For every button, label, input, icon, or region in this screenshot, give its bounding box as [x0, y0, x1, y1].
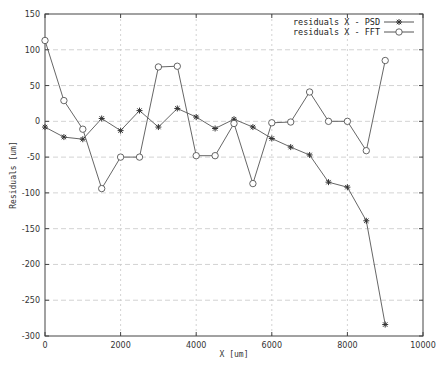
asterisk-marker-icon — [42, 124, 48, 130]
y-tick-label: 0 — [35, 117, 40, 126]
axis-ticks: 150100500-50-100-150-200-250-30002000400… — [22, 10, 436, 350]
asterisk-marker-icon — [137, 108, 143, 114]
circle-marker-icon — [344, 118, 350, 124]
asterisk-marker-icon — [174, 105, 180, 111]
circle-marker-icon — [117, 154, 123, 160]
y-tick-label: 50 — [30, 82, 40, 91]
x-tick-label: 0 — [42, 341, 47, 350]
circle-marker-icon — [61, 97, 67, 103]
circle-marker-icon — [396, 29, 402, 35]
plot-frame — [45, 14, 423, 336]
asterisk-marker-icon — [193, 114, 199, 120]
asterisk-marker-icon — [326, 179, 332, 185]
y-tick-label: 100 — [25, 46, 40, 55]
circle-marker-icon — [231, 120, 237, 126]
asterisk-marker-icon — [155, 124, 161, 130]
x-tick-label: 4000 — [186, 341, 206, 350]
x-tick-label: 2000 — [110, 341, 130, 350]
circle-marker-icon — [80, 126, 86, 132]
y-tick-label: -300 — [22, 332, 40, 341]
circle-marker-icon — [306, 89, 312, 95]
y-tick-label: -200 — [22, 260, 40, 269]
asterisk-marker-icon — [118, 128, 124, 134]
legend: residuals X - PSD residuals X - FFT — [293, 17, 414, 37]
asterisk-marker-icon — [250, 124, 256, 130]
legend-psd-label: residuals X - PSD — [293, 17, 380, 27]
circle-marker-icon — [382, 57, 388, 63]
circle-marker-icon — [269, 120, 275, 126]
x-tick-label: 6000 — [262, 341, 282, 350]
asterisk-marker-icon — [61, 134, 67, 140]
asterisk-marker-icon — [363, 218, 369, 224]
y-axis-label: Residuals [um] — [9, 141, 18, 208]
residuals-chart: 150100500-50-100-150-200-250-30002000400… — [0, 0, 441, 371]
circle-marker-icon — [363, 147, 369, 153]
circle-marker-icon — [136, 154, 142, 160]
asterisk-marker-icon — [99, 115, 105, 121]
asterisk-marker-icon — [212, 125, 218, 131]
asterisk-marker-icon — [288, 144, 294, 150]
x-tick-label: 8000 — [337, 341, 357, 350]
grid-lines — [45, 14, 423, 336]
data-series — [42, 37, 389, 327]
circle-marker-icon — [212, 152, 218, 158]
asterisk-marker-icon — [382, 322, 388, 328]
y-tick-label: -250 — [22, 296, 40, 305]
y-tick-label: 150 — [25, 10, 40, 19]
circle-marker-icon — [288, 119, 294, 125]
circle-marker-icon — [174, 63, 180, 69]
asterisk-marker-icon — [396, 19, 402, 25]
circle-marker-icon — [99, 185, 105, 191]
circle-marker-icon — [250, 180, 256, 186]
legend-fft-label: residuals X - FFT — [293, 27, 380, 37]
x-axis-label: X [um] — [220, 350, 249, 359]
asterisk-marker-icon — [307, 152, 313, 158]
series-line — [45, 109, 385, 325]
x-tick-label: 10000 — [410, 341, 435, 350]
y-tick-label: -100 — [22, 189, 40, 198]
circle-marker-icon — [42, 37, 48, 43]
y-tick-label: -50 — [27, 153, 40, 162]
circle-marker-icon — [193, 152, 199, 158]
circle-marker-icon — [325, 118, 331, 124]
asterisk-marker-icon — [269, 136, 275, 142]
y-tick-label: -150 — [22, 225, 40, 234]
asterisk-marker-icon — [396, 19, 402, 25]
series-line — [45, 41, 385, 189]
circle-marker-icon — [155, 64, 161, 70]
asterisk-marker-icon — [344, 184, 350, 190]
